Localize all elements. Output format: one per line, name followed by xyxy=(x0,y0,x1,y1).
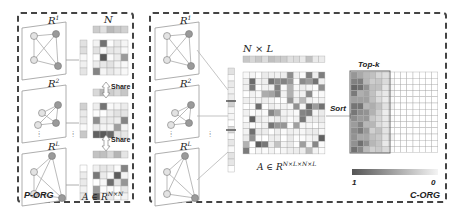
label-text: R xyxy=(180,141,188,152)
c-graph-2-label: R2 xyxy=(180,77,191,89)
label-text: A ∈ R xyxy=(257,162,283,172)
c-ellipsis-2: ⁞ xyxy=(209,130,211,139)
label-sup: 1 xyxy=(56,14,60,21)
label-text: R xyxy=(48,78,56,89)
share-label-2: Share xyxy=(111,136,130,143)
share-label-1: Share xyxy=(111,83,130,90)
label-text: A ∈ R xyxy=(82,192,108,202)
colorbar-min-label: 0 xyxy=(431,178,435,187)
label-sup: N×N xyxy=(108,190,124,197)
p-matrix-top-label: N xyxy=(104,14,113,25)
p-graph-L-label: RL xyxy=(48,140,60,152)
topk-label: Top-k xyxy=(358,60,379,69)
p-org-label: P-ORG xyxy=(24,190,54,200)
label-text: R xyxy=(48,141,56,152)
diagram-graphics xyxy=(0,0,461,216)
label-text: R xyxy=(180,15,188,26)
c-graph-L-label: RL xyxy=(180,140,192,152)
label-sup: 2 xyxy=(188,77,192,84)
p-matrix-bottom-label: A ∈ RN×N xyxy=(82,190,123,202)
p-graph-1-label: R1 xyxy=(48,14,59,26)
label-sup: L xyxy=(56,140,60,147)
label-text: R xyxy=(180,78,188,89)
label-sup: L xyxy=(188,140,192,147)
c-graph-1-label: R1 xyxy=(180,14,191,26)
c-matrix-bottom-label: A ∈ RN×L×N×L xyxy=(257,160,316,172)
p-graph-2-label: R2 xyxy=(48,77,59,89)
p-ellipsis-2: ⁞ xyxy=(72,130,74,139)
c-org-label: C-ORG xyxy=(410,190,440,200)
label-sup: N×L×N×L xyxy=(283,160,317,167)
label-text: R xyxy=(48,15,56,26)
c-ellipsis-1: ⁞ xyxy=(170,130,172,139)
label-sup: 1 xyxy=(188,14,192,21)
colorbar-max-label: 1 xyxy=(352,178,356,187)
label-sup: 2 xyxy=(56,77,60,84)
p-ellipsis-1: ⁞ xyxy=(38,130,40,139)
sort-label: Sort xyxy=(330,104,346,113)
c-matrix-top-label: N × L xyxy=(243,43,273,54)
